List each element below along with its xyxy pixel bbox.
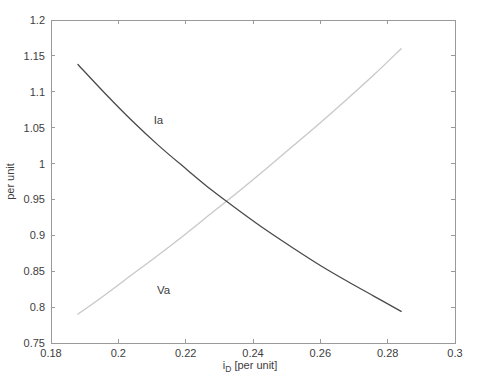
y-tick-label: 1 xyxy=(39,158,45,170)
x-tick-label: 0.2 xyxy=(111,347,126,359)
x-tick-label: 0.28 xyxy=(377,347,398,359)
y-tick-label: 0.95 xyxy=(24,193,45,205)
y-tick-label: 1.2 xyxy=(30,14,45,26)
y-tick-label: 0.8 xyxy=(30,301,45,313)
y-tick-label: 1.15 xyxy=(24,50,45,62)
y-tick-label: 0.9 xyxy=(30,229,45,241)
x-tick-label: 0.24 xyxy=(242,347,263,359)
x-axis-label-subscript: D xyxy=(225,364,231,374)
x-tick-label: 0.26 xyxy=(310,347,331,359)
y-tick-label: 1.05 xyxy=(24,122,45,134)
x-tick-label: 0.3 xyxy=(447,347,462,359)
y-tick-label: 1.1 xyxy=(30,86,45,98)
x-axis-label: iD[per unit] xyxy=(223,359,277,374)
y-tick-label: 0.85 xyxy=(24,265,45,277)
plot-generated-layer: 0.180.20.220.240.260.280.30.750.80.850.9… xyxy=(24,14,463,359)
figure: 0.180.20.220.240.260.280.30.750.80.850.9… xyxy=(0,0,482,391)
plot-canvas: 0.180.20.220.240.260.280.30.750.80.850.9… xyxy=(0,0,482,391)
axes-box xyxy=(51,20,455,343)
x-axis-label-units: [per unit] xyxy=(234,359,277,371)
x-tick-label: 0.22 xyxy=(175,347,196,359)
y-axis-label: per unit xyxy=(4,163,16,200)
curve-label-va: Va xyxy=(157,284,171,296)
curve-va xyxy=(78,49,401,315)
curve-ia xyxy=(78,65,401,312)
y-tick-label: 0.75 xyxy=(24,337,45,349)
curve-label-ia: Ia xyxy=(154,114,164,126)
